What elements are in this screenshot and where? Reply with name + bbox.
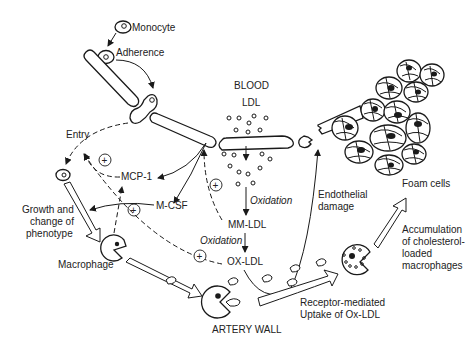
- label-mm-ldl: MM-LDL: [228, 219, 267, 230]
- label-growth-2: change of: [30, 216, 74, 227]
- monocyte-cell: [115, 21, 131, 33]
- label-adherence: Adherence: [116, 47, 165, 58]
- macrophage-1: [101, 235, 126, 261]
- arrow-to-mcsf: [174, 143, 206, 203]
- endothelial-cell-2: [150, 113, 216, 147]
- label-entry: Entry: [66, 129, 89, 140]
- damaged-endothelial-cell: [299, 136, 312, 148]
- label-growth-1: Growth and: [22, 204, 74, 215]
- foam-cells-cluster: [332, 60, 444, 175]
- label-monocyte: Monocyte: [132, 22, 176, 33]
- label-mcsf: M-CSF: [156, 200, 188, 211]
- label-endothelial-2: damage: [318, 201, 355, 212]
- plus-symbol-mcp1: +: [99, 154, 111, 166]
- label-macrophage: Macrophage: [58, 259, 114, 270]
- svg-text:+: +: [102, 155, 108, 166]
- plus-symbol-oxldl: +: [194, 250, 206, 262]
- label-receptor-2: Uptake of Ox-LDL: [300, 309, 380, 320]
- arrow-monocyte-to-adherence: [108, 33, 116, 46]
- label-oxidation-2: Oxidation: [200, 235, 243, 246]
- label-growth-3: phenotype: [26, 228, 73, 239]
- label-accum-3: loaded: [402, 248, 432, 259]
- label-foam-cells: Foam cells: [402, 178, 450, 189]
- label-accum-4: macrophages: [402, 260, 463, 271]
- label-oxidation-1: Oxidation: [250, 195, 293, 206]
- label-receptor-1: Receptor-mediated: [300, 297, 385, 308]
- label-accum-2: of cholesterol-: [402, 236, 465, 247]
- label-artery-wall: ARTERY WALL: [212, 324, 282, 335]
- label-ldl: LDL: [242, 97, 261, 108]
- label-mcp1: MCP-1: [121, 171, 153, 182]
- arrow-mcsf-to-growth: [90, 203, 154, 210]
- label-accum-1: Accumulation: [402, 224, 462, 235]
- atherosclerosis-diagram: Monocyte Adherence BLOOD LDL: [0, 0, 471, 350]
- hollow-arrow-migration: [126, 258, 202, 298]
- label-endothelial-1: Endothelial: [318, 189, 367, 200]
- svg-text:+: +: [213, 180, 219, 191]
- endothelial-cell-3: [219, 136, 293, 150]
- arrow-to-mcp1: [158, 143, 206, 178]
- entered-monocyte: [56, 170, 70, 181]
- cholesterol-loaded-macrophage: [342, 245, 370, 275]
- svg-text:+: +: [131, 205, 137, 216]
- label-ox-ldl: OX-LDL: [227, 256, 264, 267]
- svg-text:+: +: [197, 251, 203, 262]
- label-blood: BLOOD: [234, 80, 269, 91]
- plus-symbol-mmldl: +: [210, 179, 222, 191]
- macrophage-2: [202, 286, 240, 318]
